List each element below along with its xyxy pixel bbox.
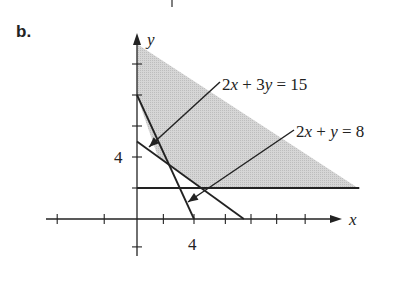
annotation-arrowhead-icon	[188, 193, 199, 202]
y-tick-label-4: 4	[114, 148, 123, 167]
y-axis-label: y	[145, 30, 155, 49]
x-tick-label-4: 4	[188, 235, 197, 254]
equation-label-1: 2x + y = 8	[296, 122, 364, 141]
x-axis-arrow-icon	[330, 215, 342, 223]
y-axis-arrow-icon	[133, 33, 141, 45]
graph: 2x + 3y = 152x + y = 8 x y 4 4	[0, 0, 417, 292]
x-axis-label: x	[348, 210, 357, 229]
equation-label-0: 2x + 3y = 15	[222, 75, 307, 94]
